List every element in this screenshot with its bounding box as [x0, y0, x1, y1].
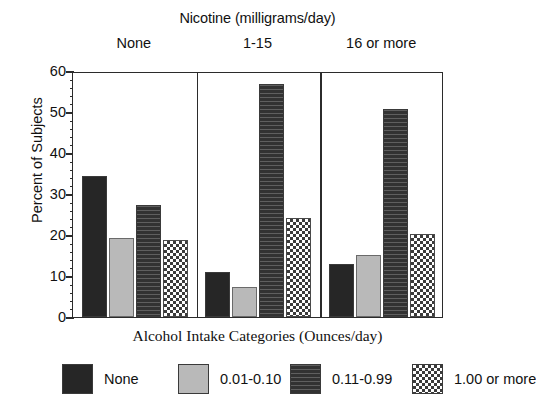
y-tick-label-40: 40	[20, 146, 66, 161]
bar-group-3	[320, 73, 444, 317]
y-axis-tick-labels: 0102030405060	[20, 0, 66, 413]
group-label-2: 1-15	[196, 35, 320, 51]
chart-legend: None0.01-0.100.11-0.991.00 or more	[0, 362, 515, 402]
y-tick-label-0: 0	[20, 310, 66, 325]
bar-2-1[interactable]	[205, 272, 230, 317]
chart-top-title: Nicotine (milligrams/day)	[0, 10, 515, 26]
bar-3-3[interactable]	[383, 109, 408, 317]
y-tick-label-30: 30	[20, 187, 66, 202]
bar-3-2[interactable]	[356, 255, 381, 317]
legend-swatch-light-gray-icon	[178, 364, 209, 394]
y-tick-label-20: 20	[20, 228, 66, 243]
bar-3-4[interactable]	[410, 234, 435, 317]
bar-1-3[interactable]	[136, 205, 161, 317]
legend-swatch-solid-dark-icon	[62, 364, 93, 394]
bar-2-2[interactable]	[232, 287, 257, 317]
plot-area	[72, 72, 443, 318]
bar-3-1[interactable]	[329, 264, 354, 317]
bar-group-2	[197, 73, 321, 317]
group-label-3: 16 or more	[319, 35, 443, 51]
legend-item-3[interactable]: 0.11-0.99	[290, 362, 392, 396]
legend-label-3: 0.11-0.99	[332, 371, 392, 387]
legend-label-1: None	[104, 371, 139, 387]
legend-swatch-checker-icon	[412, 364, 443, 394]
y-tick-label-60: 60	[20, 64, 66, 79]
legend-label-2: 0.01-0.10	[220, 371, 281, 387]
legend-item-1[interactable]: None	[62, 362, 139, 396]
legend-label-4: 1.00 or more	[454, 371, 536, 387]
bar-2-4[interactable]	[286, 218, 311, 317]
bar-1-2[interactable]	[109, 238, 134, 317]
legend-item-2[interactable]: 0.01-0.10	[178, 362, 281, 396]
x-axis-title: Alcohol Intake Categories (Ounces/day)	[0, 327, 515, 345]
group-header-row: None1-1516 or more	[72, 35, 443, 57]
bar-1-4[interactable]	[163, 240, 188, 317]
bar-2-3[interactable]	[259, 84, 284, 317]
bar-group-1	[73, 73, 197, 317]
y-tick-label-10: 10	[20, 269, 66, 284]
legend-swatch-hlines-dark-icon	[290, 364, 321, 394]
legend-item-4[interactable]: 1.00 or more	[412, 362, 536, 396]
y-tick-label-50: 50	[20, 105, 66, 120]
group-label-1: None	[72, 35, 196, 51]
bar-1-1[interactable]	[82, 176, 107, 317]
